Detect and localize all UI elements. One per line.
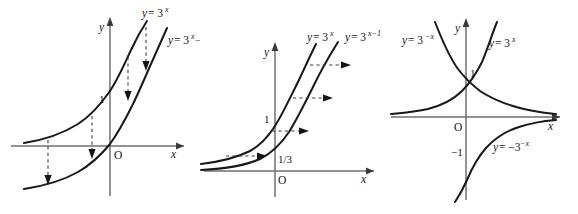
curve-label-3-eq: = −3 (499, 141, 521, 153)
curve-label-2-sup: x (511, 35, 516, 44)
y-axis-arrowhead (107, 17, 114, 26)
y-axis-label: y (454, 22, 461, 35)
curve-label-3-pow-x: y = 3 x (488, 35, 516, 50)
y-axis-label: y (263, 46, 270, 59)
curve-label-2-y: y (167, 34, 174, 47)
shift-arrow-2-head (299, 127, 309, 134)
panel-horizontal-shift: y x O 1 1/3 y = 3 x y = 3 x−1 (196, 0, 396, 214)
curve-label-3-pow-x-minus-1-exp: y = 3 x−1 (344, 29, 381, 44)
curve-label-3-sup: −x (520, 139, 529, 148)
shift-arrow-4-head (341, 61, 351, 68)
curve-label-1-sup: x (164, 5, 169, 14)
curve-label-neg-3-pow-neg-x: y = −3 −x (492, 139, 529, 154)
x-axis-arrowhead (366, 168, 374, 175)
y-tick-neg1-label: −1 (451, 146, 463, 158)
curve-3-pow-neg-x (435, 22, 556, 114)
shift-arrow-group (44, 27, 149, 185)
curve-label-2-eq: = 3 (495, 37, 510, 49)
shift-arrow-3-head (323, 94, 333, 101)
origin-label: O (114, 149, 122, 161)
curve-label-1-eq: = 3 (408, 34, 423, 46)
origin-label: O (454, 121, 462, 133)
curve-label-1-y: y (141, 7, 148, 20)
panel-reflections: y x O 1 −1 y = 3 −x y = 3 x y = −3 −x (388, 0, 578, 214)
origin-label: O (278, 174, 286, 186)
curve-label-2-eq: = 3 (174, 34, 189, 46)
curve-label-1-sup: x (329, 29, 334, 38)
curve-label-3-pow-x: y = 3 x (141, 5, 169, 20)
y-axis-arrowhead (272, 42, 279, 51)
x-axis-label: x (547, 120, 554, 132)
figure-root: y x O 1 y = 3 x y = 3 x −1 (0, 0, 578, 214)
curve-3-pow-x (24, 21, 147, 143)
curve-label-1-y: y (306, 31, 313, 44)
y-tick-third-label: 1/3 (278, 153, 293, 165)
curve-label-1-eq: = 3 (148, 7, 163, 19)
y-tick-1-label: 1 (470, 67, 476, 79)
y-axis-label: y (98, 21, 105, 34)
curve-label-1-y: y (401, 34, 408, 47)
y-tick-1-label: 1 (264, 113, 270, 125)
shift-arrow-group (226, 61, 351, 159)
curve-label-1-eq: = 3 (313, 31, 328, 43)
shift-arrow-3-head (124, 91, 131, 101)
y-axis-arrowhead (463, 18, 470, 27)
x-axis-label: x (360, 173, 367, 185)
curve-label-3-y: y (492, 141, 499, 154)
x-axis-arrowhead (176, 143, 184, 150)
curve-label-3-pow-x: y = 3 x (306, 29, 334, 44)
curve-label-2-eq: = 3 (351, 31, 366, 43)
curve-label-2-y: y (344, 31, 351, 44)
curve-3-pow-x-minus-1-exp (201, 42, 338, 170)
curve-3-pow-x (201, 44, 316, 164)
curve-neg-3-pow-neg-x (455, 120, 556, 202)
y-tick-1-label: 1 (99, 93, 105, 105)
shift-arrow-2-head (88, 149, 95, 159)
curve-label-3-pow-neg-x: y = 3 −x (401, 32, 434, 47)
x-axis-label: x (170, 148, 177, 160)
panel-vertical-shift: y x O 1 y = 3 x y = 3 x −1 (0, 0, 200, 214)
curve-label-2-sup: x−1 (367, 29, 381, 38)
curve-label-1-sup: −x (425, 32, 434, 41)
curve-label-2-y: y (488, 37, 495, 50)
